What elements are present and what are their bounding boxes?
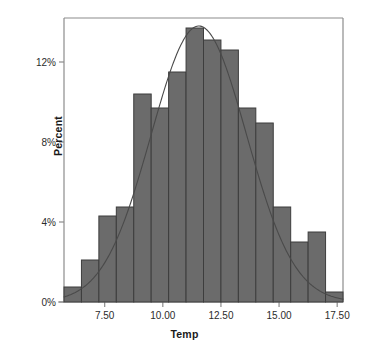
histogram-chart: 0%4%8%12% 7.5010.0012.5015.0017.50 Perce… [0, 0, 369, 354]
x-tick-label: 17.50 [312, 310, 362, 321]
x-tick-label: 15.00 [254, 310, 304, 321]
x-tick-label: 7.50 [80, 310, 130, 321]
y-axis-title: Percent [52, 86, 64, 186]
x-axis-title: Temp [0, 328, 369, 340]
x-tick-label: 10.00 [138, 310, 188, 321]
x-tick-label: 12.50 [196, 310, 246, 321]
